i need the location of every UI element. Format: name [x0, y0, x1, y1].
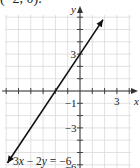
y-tick-label: −3 [65, 122, 77, 134]
y-axis-label: y [70, 3, 76, 15]
x-tick-label: 3 [114, 95, 120, 107]
y-tick-label: −1 [65, 97, 77, 109]
x-axis-label: x [133, 95, 139, 107]
axis-labels: yx33−1−3−6 [65, 3, 139, 168]
y-tick-label: 3 [70, 48, 76, 60]
x-axis-arrow-icon [131, 88, 138, 94]
y-axis-arrow-icon [77, 6, 83, 13]
axes [2, 6, 138, 168]
line-arrow-up-icon [96, 20, 103, 28]
equation-label: 3x − 2y = −6 [13, 155, 72, 168]
line-graph: yx33−1−3−6 3x − 2y = −6 [0, 0, 140, 168]
